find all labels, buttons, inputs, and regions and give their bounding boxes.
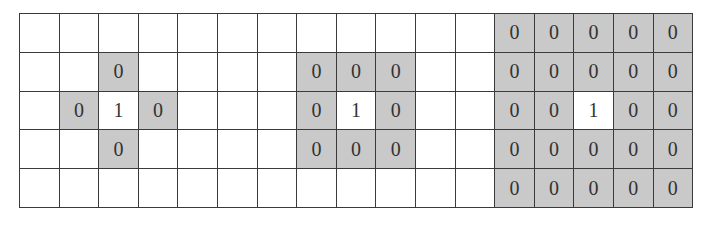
neighbor-cell: 0 — [535, 169, 575, 208]
empty-cell — [376, 14, 416, 53]
neighbor-cell: 0 — [376, 130, 416, 169]
neighbor-cell: 0 — [337, 53, 377, 92]
neighbor-cell: 0 — [99, 53, 139, 92]
empty-cell — [99, 14, 139, 53]
empty-cell — [416, 92, 456, 131]
neighbor-cell: 0 — [654, 14, 694, 53]
neighbor-cell: 0 — [535, 53, 575, 92]
neighbor-cell: 0 — [654, 130, 694, 169]
neighbor-cell: 0 — [139, 92, 179, 131]
empty-cell — [178, 14, 218, 53]
neighborhood-grid: 000000000000000100100010000000000000000 — [19, 13, 693, 208]
empty-cell — [456, 53, 496, 92]
empty-cell — [456, 169, 496, 208]
empty-cell — [416, 169, 456, 208]
empty-cell — [337, 14, 377, 53]
empty-cell — [456, 130, 496, 169]
neighbor-cell: 0 — [297, 92, 337, 131]
empty-cell — [60, 53, 100, 92]
empty-cell — [376, 169, 416, 208]
neighbor-cell: 0 — [574, 14, 614, 53]
empty-cell — [139, 169, 179, 208]
empty-cell — [20, 130, 60, 169]
empty-cell — [139, 14, 179, 53]
neighbor-cell: 0 — [574, 53, 614, 92]
neighbor-cell: 0 — [535, 14, 575, 53]
neighbor-cell: 0 — [495, 14, 535, 53]
neighbor-cell: 0 — [654, 169, 694, 208]
neighbor-cell: 0 — [60, 92, 100, 131]
center-cell: 1 — [99, 92, 139, 131]
neighbor-cell: 0 — [376, 92, 416, 131]
empty-cell — [258, 14, 298, 53]
empty-cell — [60, 169, 100, 208]
neighbor-cell: 0 — [574, 130, 614, 169]
empty-cell — [337, 169, 377, 208]
neighbor-cell: 0 — [376, 53, 416, 92]
neighbor-cell: 0 — [614, 92, 654, 131]
empty-cell — [218, 92, 258, 131]
empty-cell — [20, 53, 60, 92]
empty-cell — [456, 92, 496, 131]
neighbor-cell: 0 — [614, 14, 654, 53]
neighbor-cell: 0 — [297, 53, 337, 92]
neighbor-cell: 0 — [535, 130, 575, 169]
empty-cell — [99, 169, 139, 208]
neighbor-cell: 0 — [535, 92, 575, 131]
empty-cell — [297, 169, 337, 208]
empty-cell — [20, 14, 60, 53]
empty-cell — [139, 130, 179, 169]
empty-cell — [178, 92, 218, 131]
neighbor-cell: 0 — [337, 130, 377, 169]
center-cell: 1 — [337, 92, 377, 131]
empty-cell — [218, 53, 258, 92]
neighbor-cell: 0 — [654, 53, 694, 92]
empty-cell — [60, 14, 100, 53]
neighbor-cell: 0 — [495, 92, 535, 131]
empty-cell — [456, 14, 496, 53]
neighbor-cell: 0 — [574, 169, 614, 208]
neighbor-cell: 0 — [614, 130, 654, 169]
empty-cell — [258, 92, 298, 131]
empty-cell — [416, 130, 456, 169]
neighbor-cell: 0 — [495, 130, 535, 169]
empty-cell — [258, 53, 298, 92]
empty-cell — [218, 130, 258, 169]
neighbor-cell: 0 — [614, 169, 654, 208]
empty-cell — [258, 130, 298, 169]
empty-cell — [416, 14, 456, 53]
empty-cell — [178, 169, 218, 208]
empty-cell — [178, 130, 218, 169]
empty-cell — [20, 169, 60, 208]
empty-cell — [297, 14, 337, 53]
empty-cell — [218, 169, 258, 208]
neighbor-cell: 0 — [654, 92, 694, 131]
empty-cell — [20, 92, 60, 131]
empty-cell — [178, 53, 218, 92]
empty-cell — [60, 130, 100, 169]
neighbor-cell: 0 — [495, 53, 535, 92]
empty-cell — [218, 14, 258, 53]
empty-cell — [416, 53, 456, 92]
center-cell: 1 — [574, 92, 614, 131]
empty-cell — [258, 169, 298, 208]
empty-cell — [139, 53, 179, 92]
neighbor-cell: 0 — [495, 169, 535, 208]
neighbor-cell: 0 — [614, 53, 654, 92]
neighbor-cell: 0 — [99, 130, 139, 169]
neighbor-cell: 0 — [297, 130, 337, 169]
